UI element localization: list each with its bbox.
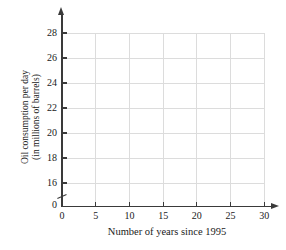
y-tick-label: 0 (36, 200, 57, 210)
y-axis-title-line1: Oil consumption per day (20, 37, 31, 197)
y-tick (62, 107, 67, 108)
x-tick-label: 10 (119, 211, 139, 221)
x-axis-title: Number of years since 1995 (62, 226, 272, 238)
x-tick (264, 202, 265, 207)
x-tick (129, 202, 130, 207)
x-tick-label: 25 (221, 211, 241, 221)
y-tick (62, 82, 67, 83)
x-tick-label: 0 (52, 211, 72, 221)
x-tick (163, 202, 164, 207)
x-tick (95, 202, 96, 207)
tick-layer: 051015202530016182022242628 (0, 0, 286, 250)
y-tick (62, 57, 67, 58)
y-tick (62, 132, 67, 133)
x-tick (196, 202, 197, 207)
y-axis-title-line2: (in millions of barrels) (31, 37, 42, 197)
x-tick-label: 30 (254, 211, 274, 221)
y-axis-title: Oil consumption per day (in millions of … (20, 37, 42, 197)
x-tick-label: 15 (153, 211, 173, 221)
empty-oil-consumption-grid: 051015202530016182022242628 Number of ye… (0, 0, 286, 250)
y-tick (62, 157, 67, 158)
x-tick-label: 20 (187, 211, 207, 221)
x-tick (230, 202, 231, 207)
y-tick (62, 32, 67, 33)
y-tick (62, 182, 67, 183)
x-tick-label: 5 (86, 211, 106, 221)
